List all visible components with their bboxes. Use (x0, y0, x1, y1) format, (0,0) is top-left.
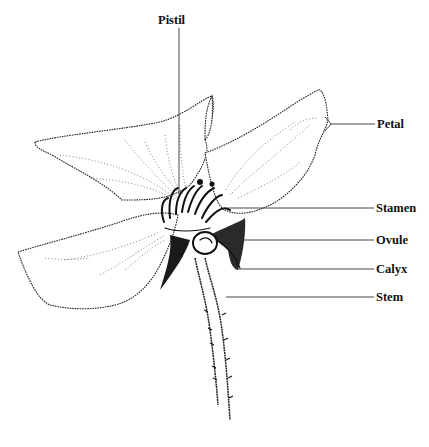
label-ovule: Ovule (376, 234, 408, 247)
label-petal: Petal (377, 118, 404, 131)
label-calyx: Calyx (376, 263, 407, 276)
label-stem: Stem (376, 291, 403, 304)
label-pistil: Pistil (158, 14, 185, 27)
petal-upper-right (205, 90, 328, 213)
stem (195, 258, 233, 420)
petal-lower-left (18, 213, 178, 309)
petal-upper-left (35, 96, 213, 200)
flower-diagram (0, 0, 429, 447)
label-stamen: Stamen (376, 202, 416, 215)
ovule (193, 232, 217, 254)
